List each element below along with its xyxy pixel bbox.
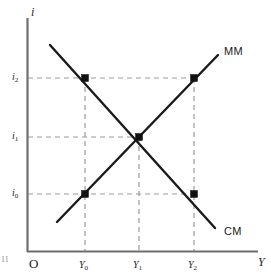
y-tick-i0-sub: 0 xyxy=(15,192,19,200)
data-point-cm-at-i0[interactable] xyxy=(191,191,198,198)
mm-curve-label: MM xyxy=(224,46,243,57)
y-tick-label-i1: i1 xyxy=(12,131,18,141)
y-tick-label-i0: i0 xyxy=(12,188,18,198)
cm-curve-label: CM xyxy=(224,226,242,237)
y-tick-i2-sub: 2 xyxy=(15,76,19,84)
y-tick-label-i2: i2 xyxy=(12,72,18,82)
y-axis-label: i xyxy=(31,6,34,18)
x-tick-label-y0: Y0 xyxy=(79,260,88,270)
x-tick-y1-sub: 1 xyxy=(139,264,143,272)
data-point-equilibrium[interactable] xyxy=(136,134,143,141)
data-point-mm-at-i2[interactable] xyxy=(191,75,198,82)
chart-figure: 11 i Y O i2 i1 i0 Y0 Y1 Y2 MM CM xyxy=(0,0,271,277)
x-axis-label: Y xyxy=(258,256,265,268)
x-tick-label-y1: Y1 xyxy=(133,260,142,270)
x-tick-y2-sub: 2 xyxy=(194,264,198,272)
x-tick-y0-base: Y xyxy=(79,259,85,270)
data-point-mm-at-i0[interactable] xyxy=(82,191,89,198)
page-edge-mark: 11 xyxy=(1,255,9,264)
x-tick-y0-sub: 0 xyxy=(85,264,89,272)
origin-label: O xyxy=(29,257,38,270)
x-tick-label-y2: Y2 xyxy=(188,260,197,270)
y-tick-i1-sub: 1 xyxy=(15,135,19,143)
x-tick-y1-base: Y xyxy=(133,259,139,270)
x-tick-y2-base: Y xyxy=(188,259,194,270)
data-point-cm-at-i2[interactable] xyxy=(82,75,89,82)
